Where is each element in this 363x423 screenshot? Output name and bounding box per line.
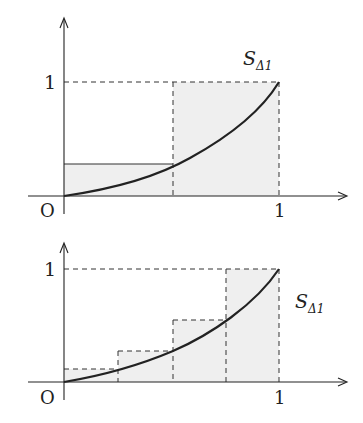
- shade-rect-2: [118, 351, 173, 382]
- panel-bottom: 1 O 1 SΔ1: [28, 243, 347, 408]
- x-tick-label: 1: [274, 200, 285, 221]
- area-label-main: S: [295, 290, 308, 312]
- x-tick-label: 1: [274, 387, 285, 408]
- area-label: SΔ1: [243, 47, 272, 73]
- area-label-sub: Δ1: [307, 302, 324, 316]
- panel-top: 1 O 1 SΔ1: [28, 18, 347, 221]
- area-label-sub: Δ1: [255, 59, 272, 73]
- area-label-main: S: [243, 47, 256, 69]
- origin-label: O: [40, 387, 55, 408]
- shade-rect-1: [64, 164, 173, 196]
- y-tick-label: 1: [44, 71, 56, 93]
- area-label: SΔ1: [295, 290, 324, 316]
- y-tick-label: 1: [44, 258, 56, 280]
- shade-rect-3: [173, 320, 226, 382]
- origin-label: O: [40, 200, 55, 221]
- figure: 1 O 1 SΔ1 1 O 1 SΔ1: [0, 0, 363, 423]
- shade-rect-2: [173, 82, 279, 196]
- shade-rect-4: [226, 269, 279, 382]
